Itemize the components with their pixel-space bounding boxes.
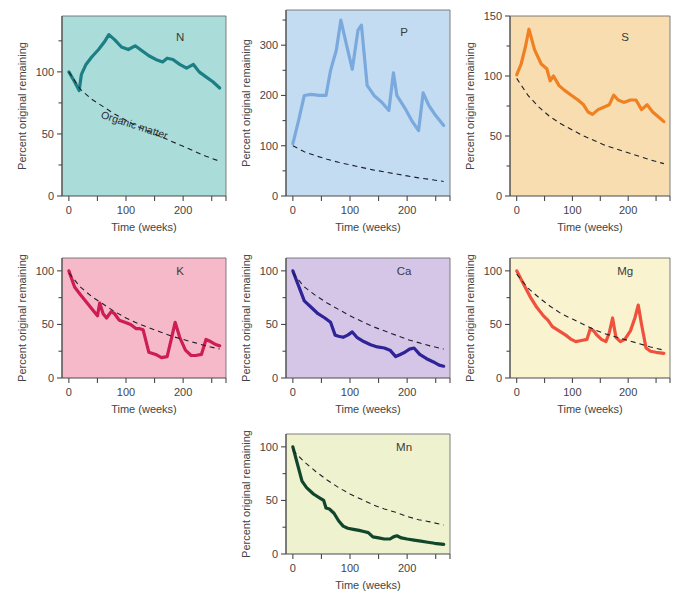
y-tick-label: 200 (260, 89, 278, 101)
panel-p: 01002003000100200Time (weeks)Percent ori… (238, 0, 456, 238)
x-axis-title: Time (weeks) (335, 221, 401, 233)
y-tick-label: 100 (484, 265, 502, 277)
x-axis-title: Time (weeks) (111, 221, 177, 233)
y-tick-label: 0 (496, 190, 502, 202)
x-tick-label: 0 (290, 386, 296, 398)
panel-label: S (621, 31, 629, 43)
y-tick-label: 50 (266, 318, 278, 330)
x-tick-label: 100 (341, 204, 359, 216)
y-axis-title: Percent original remaining (16, 254, 28, 382)
y-tick-label: 50 (490, 318, 502, 330)
x-axis-title: Time (weeks) (335, 403, 401, 415)
x-tick-label: 100 (563, 204, 581, 216)
x-tick-label: 0 (290, 562, 296, 574)
x-tick-label: 100 (117, 386, 135, 398)
x-axis-title: Time (weeks) (557, 221, 623, 233)
panel-background (286, 10, 450, 196)
x-tick-label: 0 (290, 204, 296, 216)
y-tick-label: 50 (266, 494, 278, 506)
panel-label: Mg (617, 265, 633, 277)
y-axis-title: Percent original remaining (464, 42, 476, 170)
x-axis-title: Time (weeks) (335, 579, 401, 591)
panel-background (286, 258, 450, 378)
panel-label: K (176, 265, 184, 277)
x-tick-label: 100 (341, 386, 359, 398)
y-tick-label: 100 (36, 265, 54, 277)
panel-background (510, 258, 670, 378)
y-tick-label: 0 (48, 190, 54, 202)
x-tick-label: 200 (619, 386, 637, 398)
y-tick-label: 0 (496, 372, 502, 384)
x-tick-label: 200 (398, 204, 416, 216)
nutrient-decomposition-figure: 0501000100200Time (weeks)Percent origina… (0, 0, 676, 596)
y-axis-title: Percent original remaining (240, 39, 252, 167)
x-tick-label: 100 (563, 386, 581, 398)
x-tick-label: 200 (174, 386, 192, 398)
y-tick-label: 50 (490, 130, 502, 142)
y-axis-title: Percent original remaining (464, 254, 476, 382)
x-tick-label: 200 (619, 204, 637, 216)
y-tick-label: 0 (272, 190, 278, 202)
panel-label: Ca (397, 265, 412, 277)
panel-background (62, 16, 226, 196)
y-tick-label: 100 (36, 66, 54, 78)
panel-s: 0501001500100200Time (weeks)Percent orig… (462, 6, 676, 238)
x-tick-label: 0 (514, 386, 520, 398)
x-tick-label: 200 (398, 386, 416, 398)
panel-background (62, 258, 226, 378)
y-tick-label: 0 (272, 372, 278, 384)
y-tick-label: 0 (48, 372, 54, 384)
y-axis-title: Percent original remaining (16, 42, 28, 170)
panel-k: 0501000100200Time (weeks)Percent origina… (14, 248, 232, 420)
x-tick-label: 0 (66, 386, 72, 398)
y-tick-label: 100 (260, 265, 278, 277)
y-axis-title: Percent original remaining (240, 430, 252, 558)
y-tick-label: 100 (260, 441, 278, 453)
y-tick-label: 0 (272, 548, 278, 560)
panel-label: Mn (396, 441, 412, 453)
x-axis-title: Time (weeks) (111, 403, 177, 415)
y-tick-label: 100 (260, 140, 278, 152)
panel-mn: 0501000100200Time (weeks)Percent origina… (238, 424, 456, 596)
x-tick-label: 100 (341, 562, 359, 574)
x-tick-label: 200 (174, 204, 192, 216)
panel-background (286, 434, 450, 554)
panel-mg: 0501000100200Time (weeks)Percent origina… (462, 248, 676, 420)
x-tick-label: 0 (514, 204, 520, 216)
panel-n: 0501000100200Time (weeks)Percent origina… (14, 6, 232, 238)
y-tick-label: 150 (484, 10, 502, 22)
panel-label: N (176, 31, 184, 43)
y-tick-label: 50 (42, 128, 54, 140)
x-tick-label: 0 (66, 204, 72, 216)
panel-ca: 0501000100200Time (weeks)Percent origina… (238, 248, 456, 420)
y-tick-label: 300 (260, 39, 278, 51)
x-axis-title: Time (weeks) (557, 403, 623, 415)
y-axis-title: Percent original remaining (240, 254, 252, 382)
y-tick-label: 100 (484, 70, 502, 82)
x-tick-label: 100 (117, 204, 135, 216)
x-tick-label: 200 (398, 562, 416, 574)
panel-label: P (400, 26, 408, 38)
y-tick-label: 50 (42, 318, 54, 330)
